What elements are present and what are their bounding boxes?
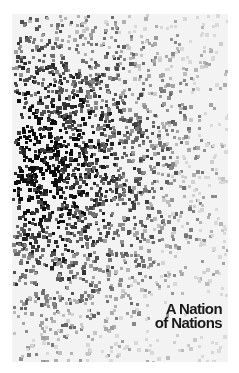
title-line-2: of Nations <box>155 316 222 330</box>
book-cover: A Nation of Nations <box>12 14 228 362</box>
cover-title: A Nation of Nations <box>155 302 222 329</box>
